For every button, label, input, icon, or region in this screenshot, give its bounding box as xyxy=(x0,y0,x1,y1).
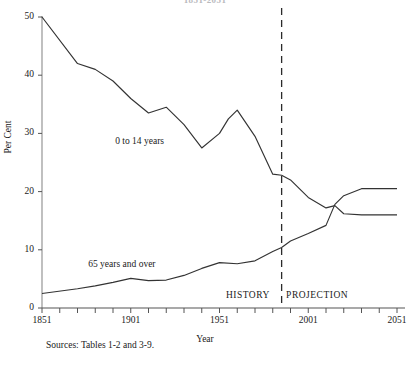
chart-figure: 1851-2051 Per Cent 01020304050 185119011… xyxy=(0,0,410,366)
period-annotation: PROJECTION xyxy=(286,290,348,300)
data-series xyxy=(42,17,397,293)
period-annotation: HISTORY xyxy=(226,290,270,300)
series-annotation: 0 to 14 years xyxy=(115,136,164,146)
series-annotation: 65 years and over xyxy=(88,259,155,269)
plot-area xyxy=(0,0,410,366)
